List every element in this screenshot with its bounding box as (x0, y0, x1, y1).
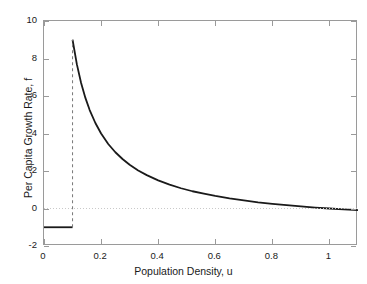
y-tick-label: 10 (0, 15, 37, 25)
x-tick-mark (272, 21, 273, 26)
y-tick-label: 4 (0, 128, 37, 138)
per-capita-growth-rate-curve (73, 40, 358, 210)
y-tick-mark (351, 21, 356, 22)
x-tick-label: 0.4 (137, 251, 177, 261)
x-tick-mark (44, 239, 45, 244)
x-tick-mark (272, 239, 273, 244)
x-tick-mark (158, 239, 159, 244)
y-tick-label: 6 (0, 90, 37, 100)
x-tick-label: 1 (308, 251, 348, 261)
plot-canvas (44, 21, 358, 246)
chart-figure: Per Capita Growth Rate, f Population Den… (0, 0, 367, 284)
y-tick-label: -2 (0, 240, 37, 250)
y-tick-mark (44, 134, 49, 135)
x-tick-label: 0.8 (251, 251, 291, 261)
y-tick-mark (351, 59, 356, 60)
plot-area (43, 20, 357, 245)
x-tick-mark (329, 21, 330, 26)
x-tick-mark (44, 21, 45, 26)
x-tick-label: 0 (23, 251, 63, 261)
y-tick-mark (351, 96, 356, 97)
x-tick-mark (215, 21, 216, 26)
y-tick-mark (44, 209, 49, 210)
y-tick-mark (44, 59, 49, 60)
y-tick-mark (351, 209, 356, 210)
x-tick-mark (215, 239, 216, 244)
y-tick-mark (44, 171, 49, 172)
y-tick-mark (351, 246, 356, 247)
y-axis-title: Per Capita Growth Rate, f (22, 58, 34, 218)
y-tick-mark (351, 134, 356, 135)
x-tick-mark (158, 21, 159, 26)
x-tick-label: 0.2 (80, 251, 120, 261)
y-tick-label: 0 (0, 203, 37, 213)
y-tick-label: 8 (0, 53, 37, 63)
y-tick-mark (44, 246, 49, 247)
x-tick-mark (329, 239, 330, 244)
y-tick-mark (351, 171, 356, 172)
x-axis-title: Population Density, u (0, 265, 367, 277)
x-tick-mark (101, 21, 102, 26)
y-tick-label: 2 (0, 165, 37, 175)
y-tick-mark (44, 96, 49, 97)
x-tick-mark (101, 239, 102, 244)
x-tick-label: 0.6 (194, 251, 234, 261)
